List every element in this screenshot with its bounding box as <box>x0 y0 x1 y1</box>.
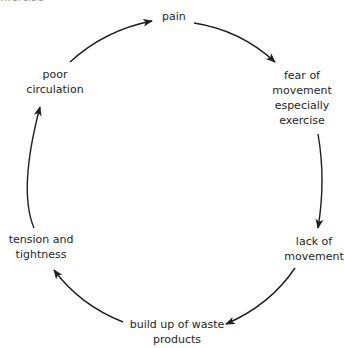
arrow-tension-to-circulation <box>27 107 40 228</box>
node-fear-line-3: especially <box>270 98 334 113</box>
arrow-pain-to-fear <box>194 23 275 62</box>
node-circulation-line-1: poor <box>24 67 86 82</box>
node-tension-line-2: tightness <box>8 247 74 262</box>
node-fear-line-2: movement <box>270 83 334 98</box>
node-pain-line-1: pain <box>162 9 186 24</box>
arrow-lack-to-waste <box>226 268 295 324</box>
node-lack-line-2: movement <box>284 249 344 264</box>
node-lack-of-movement: lack of movement <box>284 234 344 264</box>
arrow-fear-to-lack <box>318 134 322 228</box>
arrow-circulation-to-pain <box>70 21 152 62</box>
node-fear-line-4: exercise <box>270 113 334 128</box>
node-waste-line-1: build up of waste <box>126 317 228 332</box>
node-tension-and-tightness: tension and tightness <box>8 232 74 262</box>
node-waste-line-2: products <box>126 332 228 347</box>
node-build-up-of-waste: build up of waste products <box>126 317 228 347</box>
node-fear-line-1: fear of <box>270 68 334 83</box>
arrow-waste-to-tension <box>54 270 123 322</box>
node-pain: pain <box>162 9 186 24</box>
node-tension-line-1: tension and <box>8 232 74 247</box>
node-circulation-line-2: circulation <box>24 82 86 97</box>
node-lack-line-1: lack of <box>284 234 344 249</box>
node-fear-of-movement: fear of movement especially exercise <box>270 68 334 128</box>
node-poor-circulation: poor circulation <box>24 67 86 97</box>
